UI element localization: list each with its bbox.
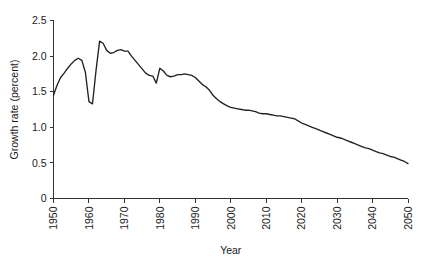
- y-tick-label: 2.5: [32, 14, 47, 26]
- growth-rate-line-chart: 00.51.01.52.02.5 19501960197019801990200…: [0, 0, 424, 269]
- plot-area: [54, 41, 409, 163]
- x-tick-label: 2000: [225, 206, 237, 230]
- x-axis: 1950196019701980199020002010202020302040…: [47, 199, 414, 230]
- y-axis: 00.51.01.52.02.5: [32, 14, 54, 204]
- x-tick-label: 1970: [118, 206, 130, 230]
- x-tick-label: 1950: [47, 206, 59, 230]
- y-tick-label: 1.0: [32, 121, 47, 133]
- x-tick-label: 2030: [331, 206, 343, 230]
- x-tick-label: 1960: [83, 206, 95, 230]
- y-tick-label: 0: [41, 192, 47, 204]
- x-tick-label: 1990: [189, 206, 201, 230]
- x-axis-title: Year: [220, 244, 242, 256]
- x-tick-label: 2020: [295, 206, 307, 230]
- x-tick-label: 2040: [366, 206, 378, 230]
- x-tick-label: 2050: [402, 206, 414, 230]
- y-tick-label: 1.5: [32, 85, 47, 97]
- y-axis-title: Growth rate (percent): [8, 60, 20, 160]
- data-series-line: [54, 41, 409, 163]
- x-tick-label: 1980: [154, 206, 166, 230]
- y-tick-label: 0.5: [32, 157, 47, 169]
- y-tick-label: 2.0: [32, 50, 47, 62]
- x-tick-label: 2010: [260, 206, 272, 230]
- chart-canvas: 00.51.01.52.02.5 19501960197019801990200…: [0, 0, 424, 269]
